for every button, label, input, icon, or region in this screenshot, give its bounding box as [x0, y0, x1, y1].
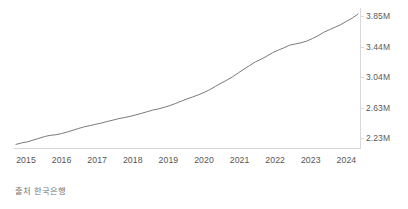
- y-axis-tick-mark: [361, 108, 364, 109]
- source-note: 출처 한국은행: [15, 184, 66, 196]
- x-axis-tick-label: 2024: [337, 155, 357, 166]
- y-axis-line: [360, 8, 361, 149]
- plot-area[interactable]: [14, 8, 360, 148]
- y-axis-tick-mark: [361, 77, 364, 78]
- x-axis-tick-label: 2023: [301, 155, 321, 166]
- y-axis-tick-mark: [361, 47, 364, 48]
- x-axis-tick-label: 2021: [230, 155, 250, 166]
- x-axis-tick-label: 2017: [87, 155, 107, 166]
- y-axis-tick-label: 3.04M: [366, 72, 390, 82]
- series-line-chart[interactable]: [14, 8, 360, 148]
- series-line-path: [16, 14, 358, 144]
- y-axis-tick-mark: [361, 138, 364, 139]
- x-axis-tick-label: 2020: [194, 155, 214, 166]
- y-axis-tick-label: 3.85M: [366, 11, 390, 21]
- x-axis-line: [14, 148, 361, 149]
- y-axis-tick-labels: 3.85M3.44M3.04M2.63M2.23M: [366, 0, 408, 150]
- y-axis-tick-label: 3.44M: [366, 42, 390, 52]
- y-axis-tick-label: 2.63M: [366, 103, 390, 113]
- x-axis-tick-label: 2018: [123, 155, 143, 166]
- line-chart-widget: 3.85M3.44M3.04M2.63M2.23M 20152016201720…: [0, 0, 408, 209]
- x-axis-tick-label: 2016: [52, 155, 72, 166]
- y-axis-tick-mark: [361, 16, 364, 17]
- y-axis-tick-label: 2.23M: [366, 133, 390, 143]
- x-axis-tick-label: 2015: [16, 155, 36, 166]
- x-axis-tick-labels: 2015201620172018201920202021202220232024: [14, 155, 361, 169]
- x-axis-tick-label: 2019: [159, 155, 179, 166]
- x-axis-tick-label: 2022: [265, 155, 285, 166]
